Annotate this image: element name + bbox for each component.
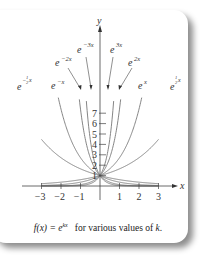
y-tick-label: 5 <box>92 129 97 140</box>
svg-text:−3x: −3x <box>83 41 94 48</box>
curve-e^{-x} <box>58 98 158 186</box>
label-e-neg3x: e −3x <box>77 41 94 55</box>
svg-text:3x: 3x <box>115 41 122 48</box>
svg-text:−x: −x <box>57 78 64 85</box>
svg-text:x: x <box>143 78 147 85</box>
svg-text:e: e <box>110 44 115 55</box>
x-tick-label: −2 <box>54 191 65 202</box>
x-axis-label: x <box>179 180 185 191</box>
x-tick-label: 3 <box>156 191 161 202</box>
y-tick-label: 1 <box>92 170 97 181</box>
y-tick-label: 7 <box>92 108 97 119</box>
svg-text:e: e <box>138 80 143 91</box>
svg-text:e: e <box>55 57 60 68</box>
x-tick-label: 2 <box>137 191 142 202</box>
y-axis-arrow-icon <box>98 25 102 32</box>
x-axis-arrow-icon <box>172 184 178 188</box>
svg-text:x: x <box>28 77 32 83</box>
x-tick-label: −1 <box>74 191 85 202</box>
label-e-2x: e 2x <box>128 55 140 68</box>
svg-text:−2x: −2x <box>61 55 72 62</box>
svg-text:e: e <box>77 44 82 55</box>
y-tick-label: 3 <box>92 149 97 160</box>
label-e-halfx: e 1 2 x <box>170 75 181 92</box>
y-tick-label: 4 <box>92 139 97 150</box>
x-tick-label: −3 <box>35 191 46 202</box>
figure-caption: f(x) = ekx for various values of k. <box>0 220 196 233</box>
y-tick-label: 6 <box>92 118 97 129</box>
curve-e^{3x} <box>42 101 114 186</box>
svg-text:2x: 2x <box>134 55 140 62</box>
svg-text:x: x <box>177 77 181 83</box>
label-e-neg2x: e −2x <box>55 55 72 68</box>
y-tick-label: 2 <box>92 160 97 171</box>
y-axis-label: y <box>96 15 102 26</box>
label-e-x: e x <box>138 78 147 91</box>
label-e-neghalfx: e − 1 2 x <box>17 75 32 92</box>
label-e-negx: e −x <box>51 78 64 91</box>
curve-e^{-3x} <box>86 101 158 186</box>
svg-text:e: e <box>51 80 56 91</box>
label-e-3x: e 3x <box>110 41 122 55</box>
x-tick-label: 1 <box>117 191 122 202</box>
svg-text:e: e <box>128 57 133 68</box>
